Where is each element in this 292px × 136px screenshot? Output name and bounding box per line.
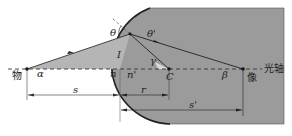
- label-n: n: [110, 68, 116, 79]
- label-s-prime: s': [189, 99, 197, 110]
- label-beta: β: [221, 69, 228, 80]
- refraction-diagram: θ θ' I α n n' γ C β s r s' 物 像 光轴: [0, 0, 292, 136]
- label-n-prime: n': [127, 69, 136, 80]
- label-theta-prime: θ': [147, 28, 156, 39]
- label-center: C: [166, 71, 174, 82]
- label-alpha: α: [37, 68, 44, 79]
- label-s: s: [73, 84, 78, 95]
- label-optical-axis: 光轴: [264, 62, 284, 74]
- label-theta: θ: [110, 27, 116, 38]
- dim-s-arrow-right: [113, 94, 119, 97]
- label-gamma: γ: [150, 55, 156, 66]
- label-image: 像: [247, 72, 257, 83]
- dim-s-prime-arrow-left: [121, 109, 127, 112]
- label-object: 物: [12, 69, 22, 81]
- dim-s-arrow-left: [28, 94, 34, 97]
- glass-body: [111, 8, 284, 124]
- incidence-point: [129, 33, 132, 36]
